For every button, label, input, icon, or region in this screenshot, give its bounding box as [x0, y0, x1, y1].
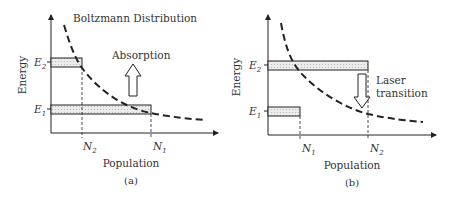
- n2-label: N2: [82, 140, 97, 155]
- absorption-arrow-icon: [125, 64, 141, 96]
- level-e1-bar: [268, 107, 300, 116]
- panel-b: Laser transition Energy Population (b) E…: [230, 15, 436, 188]
- e1-label: E1: [248, 105, 261, 120]
- boltzmann-curve: [281, 23, 423, 122]
- e1-label: E1: [33, 103, 46, 118]
- x-axis-label: Population: [103, 157, 160, 169]
- arrow-label: Absorption: [111, 49, 171, 61]
- n1-label: N1: [152, 140, 167, 155]
- y-axis-label: Energy: [230, 58, 242, 96]
- level-e2-bar: [268, 61, 368, 70]
- x-axis-label: Population: [324, 159, 381, 171]
- panel-caption: (b): [345, 177, 359, 188]
- n1-label: N1: [301, 142, 316, 157]
- e2-label: E2: [33, 56, 47, 71]
- y-axis-label: Energy: [16, 56, 28, 94]
- n2-label: N2: [369, 142, 384, 157]
- curve-label: Boltzmann Distribution: [73, 12, 197, 24]
- e2-label: E2: [248, 59, 262, 74]
- arrow-label-line2: transition: [376, 87, 428, 99]
- arrow-label-line1: Laser: [376, 74, 407, 86]
- panel-a: Boltzmann Distribution Absorption Energy…: [16, 12, 218, 186]
- panel-caption: (a): [124, 175, 138, 186]
